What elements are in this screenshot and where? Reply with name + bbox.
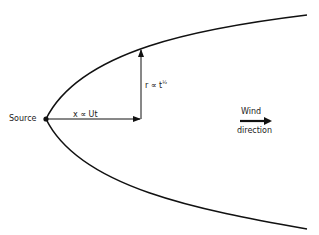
plume-diagram [0, 0, 319, 235]
wind-label: Wind [241, 108, 261, 116]
r-relation-base: r ∝ t [145, 81, 162, 90]
source-label: Source [9, 115, 36, 123]
r-relation-label: r ∝ t½ [145, 80, 167, 90]
direction-label: direction [237, 127, 272, 135]
wind-arrow-head [264, 117, 272, 125]
x-relation-label: x ∝ Ut [73, 111, 98, 119]
r-relation-exponent: ½ [162, 79, 167, 85]
